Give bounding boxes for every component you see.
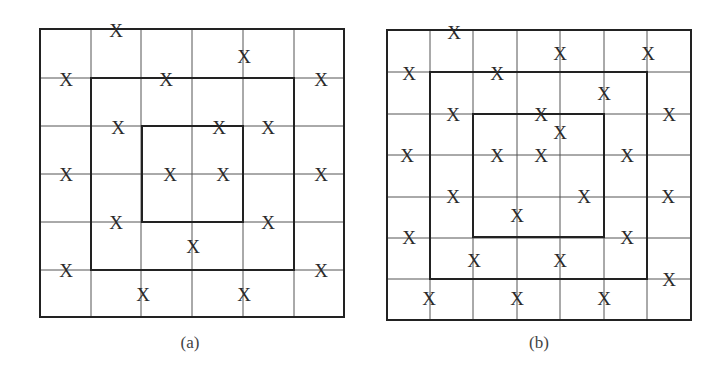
outer-box xyxy=(387,30,691,320)
x-mark: X xyxy=(159,69,173,90)
x-mark: X xyxy=(314,164,328,185)
x-mark: X xyxy=(620,227,634,248)
x-mark: X xyxy=(109,212,123,233)
x-mark: X xyxy=(490,63,504,84)
x-mark: X xyxy=(136,284,150,305)
x-mark: X xyxy=(641,43,655,64)
x-mark: X xyxy=(59,69,73,90)
x-mark: X xyxy=(510,288,524,309)
x-mark: X xyxy=(261,212,275,233)
x-mark: X xyxy=(314,69,328,90)
x-mark: X xyxy=(661,186,675,207)
x-mark: X xyxy=(467,250,481,271)
x-mark: X xyxy=(597,288,611,309)
figure-caption: (a) xyxy=(181,333,200,352)
x-mark: X xyxy=(59,164,73,185)
x-mark: X xyxy=(553,250,567,271)
x-mark: X xyxy=(237,46,251,67)
x-mark: X xyxy=(490,145,504,166)
x-mark: X xyxy=(261,117,275,138)
x-mark: X xyxy=(59,260,73,281)
x-mark: X xyxy=(446,186,460,207)
x-mark: X xyxy=(553,122,567,143)
x-mark: X xyxy=(597,83,611,104)
x-mark: X xyxy=(314,260,328,281)
diagram-canvas: XXXXXXXXXXXXXXXXXXX(a) XXXXXXXXXXXXXXXXX… xyxy=(0,0,721,374)
figure-caption: (b) xyxy=(529,333,549,352)
x-mark: X xyxy=(446,104,460,125)
x-mark: X xyxy=(577,186,591,207)
figure-a: XXXXXXXXXXXXXXXXXXX(a) xyxy=(40,20,344,352)
x-mark: X xyxy=(534,104,548,125)
x-mark: X xyxy=(553,43,567,64)
x-mark: X xyxy=(186,236,200,257)
x-mark: X xyxy=(163,164,177,185)
x-mark: X xyxy=(216,164,230,185)
x-mark: X xyxy=(534,145,548,166)
x-mark: X xyxy=(402,63,416,84)
x-mark: X xyxy=(620,145,634,166)
x-mark: X xyxy=(422,288,436,309)
inner-box xyxy=(473,114,604,237)
x-mark: X xyxy=(109,20,123,41)
x-mark: X xyxy=(662,269,676,290)
x-mark: X xyxy=(400,145,414,166)
x-mark: X xyxy=(212,117,226,138)
x-mark: X xyxy=(447,22,461,43)
x-mark: X xyxy=(510,205,524,226)
x-mark: X xyxy=(111,117,125,138)
figure-b: XXXXXXXXXXXXXXXXXXXXXXXXXX(b) xyxy=(387,22,691,352)
x-mark: X xyxy=(662,104,676,125)
x-mark: X xyxy=(237,284,251,305)
x-mark: X xyxy=(402,227,416,248)
